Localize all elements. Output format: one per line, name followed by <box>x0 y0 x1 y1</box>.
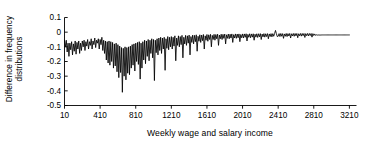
y-tick-label-group: 0.10-0.1-0.2-0.3-0.4-0.5 <box>47 13 62 110</box>
x-tick-label: 2010 <box>233 111 252 120</box>
y-tick-label: -0.4 <box>47 87 62 96</box>
y-tick-label: 0 <box>56 28 61 37</box>
x-tick-label: 1610 <box>198 111 217 120</box>
data-series-line <box>65 30 350 92</box>
x-tick-label: 810 <box>129 111 143 120</box>
x-tick-label: 10 <box>60 111 70 120</box>
y-tick-label: -0.3 <box>47 72 62 81</box>
chart-figure: Difference in frequency distributions 0.… <box>0 0 366 153</box>
y-tick-label: 0.1 <box>50 13 62 22</box>
y-tick-label: -0.1 <box>47 43 62 52</box>
x-tick-label-group: 10410810121016102010241028103210 <box>60 111 359 120</box>
x-tick-label: 1210 <box>162 111 181 120</box>
y-tick-label: -0.2 <box>47 57 62 66</box>
x-tick-label: 3210 <box>340 111 359 120</box>
x-tick-label: 2410 <box>269 111 288 120</box>
x-axis-title: Weekly wage and salary income <box>60 128 360 138</box>
x-tick-label: 2810 <box>305 111 324 120</box>
x-tick-label: 410 <box>93 111 107 120</box>
y-tick-label: -0.5 <box>47 101 62 110</box>
